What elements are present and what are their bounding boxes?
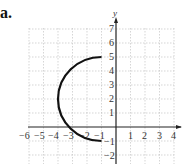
svg-text:3: 3 xyxy=(109,79,114,90)
svg-text:4: 4 xyxy=(109,65,114,76)
svg-text:1: 1 xyxy=(109,107,114,118)
semicircle-curve xyxy=(58,57,102,141)
grid xyxy=(29,28,174,164)
svg-text:−6: −6 xyxy=(19,130,30,141)
svg-text:−1: −1 xyxy=(104,136,115,147)
svg-text:−3: −3 xyxy=(63,130,74,141)
svg-text:2: 2 xyxy=(142,130,147,141)
svg-text:4: 4 xyxy=(171,130,176,141)
svg-text:−5: −5 xyxy=(34,130,45,141)
svg-text:1: 1 xyxy=(128,130,133,141)
svg-text:6: 6 xyxy=(109,37,114,48)
svg-text:7: 7 xyxy=(109,23,114,34)
svg-text:5: 5 xyxy=(109,51,114,62)
chart: y −6 −5 −4 −3 −2 −1 1 2 3 4 7 6 5 4 3 2 … xyxy=(0,0,182,164)
svg-text:−2: −2 xyxy=(104,150,115,161)
svg-text:−4: −4 xyxy=(48,130,59,141)
y-axis-label: y xyxy=(112,8,117,18)
svg-text:3: 3 xyxy=(157,130,162,141)
svg-text:2: 2 xyxy=(109,93,114,104)
x-tick-labels: −6 −5 −4 −3 −2 −1 1 2 3 4 xyxy=(19,130,176,141)
y-tick-labels: 7 6 5 4 3 2 1 −1 −2 xyxy=(104,23,115,161)
